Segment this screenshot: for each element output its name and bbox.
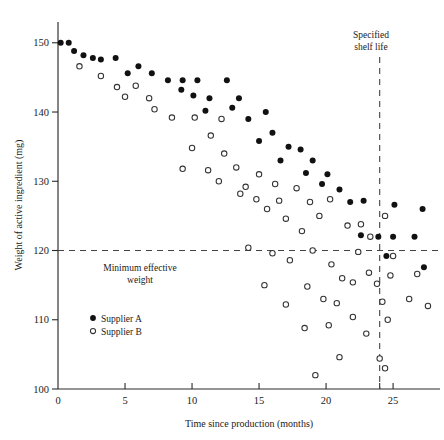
data-point-supplier-a [113,55,119,61]
data-point-supplier-b [321,296,326,301]
data-point-supplier-a [180,77,186,83]
data-point-supplier-b [234,165,239,170]
data-point-supplier-a [324,171,330,177]
data-point-supplier-a [278,157,284,163]
data-point-supplier-a [245,116,251,122]
data-point-supplier-a [224,77,230,83]
data-point-supplier-b [329,262,334,267]
data-point-supplier-b [307,199,312,204]
data-point-supplier-a [256,138,262,144]
data-point-supplier-b [385,317,390,322]
data-point-supplier-a [391,202,397,208]
data-point-supplier-a [298,146,304,152]
data-point-supplier-a [190,92,196,98]
data-point-supplier-a [263,109,269,115]
data-point-supplier-a [375,234,381,240]
data-point-supplier-b [256,172,261,177]
data-point-supplier-b [377,356,382,361]
x-axis-ticks: 0510152025 [55,383,398,406]
y-tick-label-150: 150 [33,37,49,48]
data-point-supplier-a [390,234,396,240]
data-point-supplier-a [412,234,418,240]
data-point-supplier-b [339,276,344,281]
data-point-supplier-a [269,130,275,136]
data-point-supplier-a [286,144,292,150]
data-point-supplier-b [390,253,395,258]
data-point-supplier-a [58,40,64,46]
data-point-supplier-b [327,197,332,202]
data-point-supplier-a [310,157,316,163]
data-point-supplier-b [264,206,269,211]
y-tick-label-100: 100 [33,384,49,395]
data-point-supplier-b [122,94,127,99]
data-point-supplier-b [146,95,151,100]
data-point-supplier-b [310,248,315,253]
data-point-supplier-b [317,213,322,218]
data-point-supplier-b [276,198,281,203]
data-point-supplier-a [71,48,77,54]
y-axis-title: Weight of active ingredient (mg) [13,140,25,271]
data-point-supplier-b [345,223,350,228]
reference-lines [58,57,440,389]
data-point-supplier-a [319,181,325,187]
data-point-supplier-b [374,281,379,286]
data-point-supplier-a [80,52,86,58]
legend-marker-supplier-b [90,328,95,333]
x-tick-label-0: 0 [55,395,60,406]
data-point-supplier-b [222,151,227,156]
data-point-supplier-b [283,216,288,221]
x-tick-label-5: 5 [122,395,127,406]
data-point-supplier-a [90,55,96,61]
data-point-supplier-b [283,302,288,307]
data-point-supplier-a [361,198,367,204]
data-point-supplier-b [299,228,304,233]
data-point-supplier-a [178,87,184,93]
data-point-supplier-a [165,77,171,83]
data-point-supplier-b [270,251,275,256]
y-tick-label-130: 130 [33,176,49,187]
data-point-supplier-b [415,271,420,276]
y-tick-label-140: 140 [33,107,49,118]
legend-label-supplier-a: Supplier A [101,314,142,324]
data-point-supplier-b [272,181,277,186]
data-point-supplier-b [294,185,299,190]
data-point-supplier-b [114,84,119,89]
data-point-supplier-b [238,191,243,196]
chart-canvas: 100110120130140150 0510152025 Weight of … [0,0,444,440]
data-point-supplier-b [313,372,318,377]
data-point-supplier-a [98,56,104,62]
data-point-supplier-b [356,249,361,254]
shelf-life-label-line1: Specified [353,30,389,40]
data-point-supplier-b [326,323,331,328]
data-point-supplier-a [202,108,208,114]
data-point-supplier-b [77,64,82,69]
data-point-supplier-b [216,179,221,184]
data-point-supplier-b [262,282,267,287]
specified-shelf-life-annotation: Specified shelf life [353,30,389,52]
min-weight-label-line2: weight [127,275,153,285]
legend-label-supplier-b: Supplier B [101,327,142,337]
data-point-supplier-a [66,40,72,46]
data-point-supplier-b [382,213,387,218]
data-point-supplier-b [133,83,138,88]
data-point-supplier-b [305,284,310,289]
legend-marker-supplier-a [90,315,96,321]
x-tick-label-25: 25 [388,395,399,406]
data-point-supplier-a [135,63,141,69]
x-tick-label-10: 10 [187,395,198,406]
data-point-supplier-a [303,170,309,176]
data-point-supplier-b [169,115,174,120]
data-point-supplier-b [98,73,103,78]
data-point-supplier-b [287,258,292,263]
scatter-chart: 100110120130140150 0510152025 Weight of … [0,0,444,440]
data-point-supplier-b [152,107,157,112]
data-point-supplier-a [420,206,426,212]
min-weight-label-line1: Minimum effective [103,263,176,273]
data-point-supplier-a [149,70,155,76]
data-point-supplier-b [350,280,355,285]
x-tick-label-15: 15 [254,395,265,406]
data-point-supplier-a [421,264,427,270]
data-point-supplier-a [194,77,200,83]
data-point-supplier-b [254,197,259,202]
data-point-supplier-b [366,270,371,275]
